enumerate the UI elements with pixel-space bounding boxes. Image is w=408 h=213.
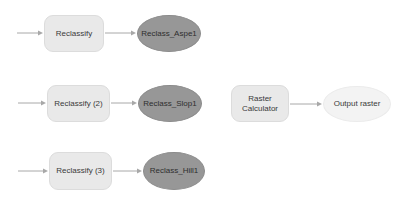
- arrowhead-icon: [131, 30, 136, 35]
- arrowhead-icon: [38, 30, 43, 35]
- input-to-reclassify-3-connector: [18, 168, 48, 173]
- tool-node-label: Raster Calculator: [239, 94, 281, 112]
- input-to-reclassify-2-connector: [18, 100, 46, 105]
- tool-node-raster-calculator[interactable]: Raster Calculator: [231, 85, 289, 122]
- tool-node-reclassify-2[interactable]: Reclassify (2): [47, 85, 110, 122]
- reclassify-3-to-reclass-hill1-connector: [113, 168, 142, 173]
- data-node-label: Output raster: [334, 99, 381, 108]
- reclassify-2-to-reclass-slop1-connector: [111, 100, 137, 105]
- data-node-output-raster[interactable]: Output raster: [323, 86, 391, 122]
- tool-node-label: Reclassify (2): [51, 99, 105, 108]
- input-to-reclassify-1-connector: [17, 30, 43, 35]
- arrowhead-icon: [132, 100, 137, 105]
- arrowhead-icon: [43, 168, 48, 173]
- tool-node-label: Reclassify (3): [53, 166, 107, 175]
- arrowhead-icon: [137, 168, 142, 173]
- data-node-label: Reclass_Hill1: [150, 166, 198, 175]
- data-node-label: Reclass_Slop1: [143, 99, 196, 108]
- data-node-reclass-hill1[interactable]: Reclass_Hill1: [143, 152, 205, 190]
- model-diagram-canvas: Reclassify Reclass_Aspe1 Reclassify (2) …: [0, 0, 408, 213]
- reclassify-1-to-reclass-aspe1-connector: [105, 30, 136, 35]
- tool-node-reclassify-1[interactable]: Reclassify: [44, 15, 104, 52]
- tool-node-label: Reclassify: [53, 29, 95, 38]
- tool-node-reclassify-3[interactable]: Reclassify (3): [49, 152, 112, 190]
- data-node-reclass-aspe1[interactable]: Reclass_Aspe1: [137, 15, 201, 52]
- data-node-reclass-slop1[interactable]: Reclass_Slop1: [138, 85, 202, 122]
- raster-calculator-to-output-raster-connector: [290, 101, 322, 106]
- arrowhead-icon: [317, 101, 322, 106]
- data-node-label: Reclass_Aspe1: [141, 29, 197, 38]
- arrowhead-icon: [41, 100, 46, 105]
